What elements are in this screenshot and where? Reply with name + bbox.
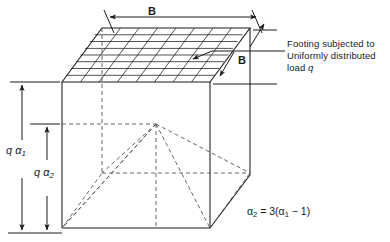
annotation-line-2: Uniformly distributed xyxy=(287,50,376,62)
width-dimension xyxy=(104,10,262,33)
bulb-ray-left-upper xyxy=(64,124,156,226)
annotation-line-3: load q xyxy=(287,62,376,74)
qa1-subscript: 1 xyxy=(21,149,25,158)
relationship-formula: α2 = 3(α1 − 1) xyxy=(247,205,310,220)
depth-arrow-up xyxy=(250,24,264,47)
footing-diagram-svg xyxy=(0,0,390,242)
depth-dimension-label: B xyxy=(238,54,246,68)
width-dimension-label: B xyxy=(148,5,156,19)
formula-equals: = 3( xyxy=(257,205,278,217)
footing-annotation: Footing subjected to Uniformly distribut… xyxy=(287,38,376,74)
vertical-dimension-lower-label: q α2 xyxy=(34,166,54,181)
qa2-text: q α xyxy=(34,166,49,178)
diagram-canvas: B B Footing subjected to Uniformly distr… xyxy=(0,0,390,242)
dim-extension-left xyxy=(104,10,114,33)
bulb-ray-right xyxy=(156,124,250,173)
annotation-load-prefix: load xyxy=(287,62,308,73)
formula-tail: − 1) xyxy=(289,205,310,217)
hidden-edges xyxy=(102,28,250,173)
bulb-ray-front-right xyxy=(156,124,210,228)
vertical-dimension-upper-label: q α1 xyxy=(6,144,26,159)
annotation-load-symbol: q xyxy=(308,62,313,73)
bulb-base-right xyxy=(210,173,250,228)
bulb-ray-back-left xyxy=(102,124,156,173)
depth-arrow-down xyxy=(220,52,234,76)
qa1-text: q α xyxy=(6,144,21,156)
annotation-line-1: Footing subjected to xyxy=(287,38,376,50)
bulb-base-left xyxy=(62,173,102,228)
qa2-subscript: 2 xyxy=(49,171,53,180)
